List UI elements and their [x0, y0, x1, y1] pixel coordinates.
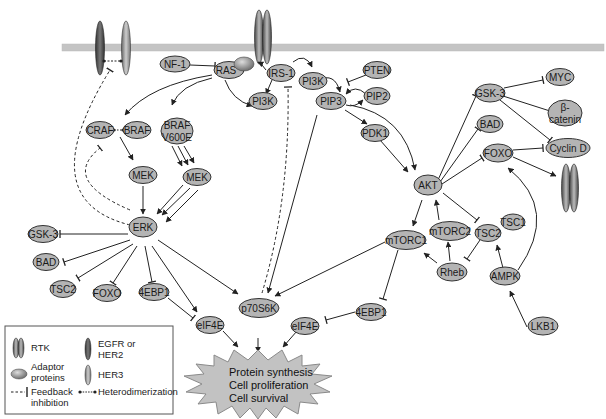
legend-proteins-label: proteins [31, 372, 65, 383]
node-mtorc2[interactable]: mTORC2 [429, 222, 471, 241]
node-eif4e-right[interactable]: eIF4E [291, 318, 319, 335]
node-braf-v600e[interactable]: BRAF V600E [161, 118, 193, 144]
legend-her3-label: HER3 [98, 369, 123, 380]
node-ampk[interactable]: AMPK [490, 267, 520, 285]
her3-receptor-icon [122, 21, 131, 75]
svg-text:MEK: MEK [186, 172, 208, 183]
legend-adaptor-label: Adaptor [31, 361, 64, 372]
node-lkb1[interactable]: LKB1 [528, 317, 558, 335]
svg-text:LKB1: LKB1 [531, 321, 556, 332]
svg-text:eIF4E: eIF4E [197, 320, 224, 331]
svg-text:BAD: BAD [36, 257, 57, 268]
svg-text:V600E: V600E [162, 132, 192, 143]
outcome-cell-proliferation: Cell proliferation [229, 379, 308, 391]
node-mek-braf[interactable]: MEK [183, 169, 211, 186]
node-braf[interactable]: BRAF [123, 122, 151, 139]
node-tsc2-left[interactable]: TSC2 [50, 281, 76, 298]
svg-text:PI3K: PI3K [252, 96, 274, 107]
legend-her2-label: HER2 [98, 349, 123, 360]
svg-text:GSK-3: GSK-3 [475, 88, 505, 99]
legend-adaptor-icon [11, 369, 27, 379]
svg-text:FOXO: FOXO [93, 288, 122, 299]
node-pip2[interactable]: PIP2 [364, 88, 390, 105]
svg-text:β-: β- [560, 102, 569, 113]
node-erk[interactable]: ERK [129, 217, 157, 237]
legend-feedback-label: Feedback [31, 386, 73, 397]
svg-text:RAS: RAS [216, 65, 237, 76]
svg-text:IRS-1: IRS-1 [268, 68, 294, 79]
svg-text:TSC2: TSC2 [50, 284, 76, 295]
node-nf1[interactable]: NF-1 [160, 56, 190, 72]
node-pdk1[interactable]: PDK1 [361, 125, 389, 142]
svg-text:AKT: AKT [418, 180, 437, 191]
legend-egfr-icon [85, 338, 91, 360]
node-4ebp1-left[interactable]: 4EBP1 [138, 284, 170, 301]
node-irs1[interactable]: IRS-1 [267, 65, 295, 82]
node-p70s6k[interactable]: p70S6K [239, 299, 279, 318]
svg-text:MYC: MYC [549, 72, 571, 83]
svg-text:4EBP1: 4EBP1 [355, 307, 387, 318]
node-tsc1[interactable]: TSC1 [500, 214, 526, 230]
svg-text:CRAF: CRAF [86, 125, 113, 136]
cell-membrane [62, 44, 604, 51]
signaling-pathway-diagram: NF-1 RAS IRS-1 PI3K PI3K PTEN PIP3 PIP2 … [0, 0, 606, 419]
svg-text:BAD: BAD [480, 119, 501, 130]
legend-inhibition-label: inhibition [31, 397, 69, 408]
pathway-edges [60, 58, 556, 352]
svg-text:BRAF: BRAF [124, 125, 151, 136]
node-myc[interactable]: MYC [546, 69, 574, 86]
legend-rtk-icon [13, 338, 24, 358]
svg-text:PTEN: PTEN [364, 65, 391, 76]
svg-text:eIF4E: eIF4E [292, 321, 319, 332]
node-gsk3-right[interactable]: GSK-3 [475, 84, 505, 102]
svg-text:GSK-3: GSK-3 [28, 229, 58, 240]
node-foxo-right[interactable]: FOXO [483, 144, 513, 162]
pathway-nodes: NF-1 RAS IRS-1 PI3K PI3K PTEN PIP3 PIP2 … [28, 56, 590, 335]
rtk-receptor-icon-right [562, 164, 579, 212]
legend-heterodimerization-label: Heterodimerization [98, 386, 178, 397]
node-pten[interactable]: PTEN [363, 62, 391, 79]
node-craf[interactable]: CRAF [86, 122, 114, 139]
legend-rtk-label: RTK [31, 342, 50, 353]
node-beta-catenin[interactable]: β- catenin [548, 100, 582, 126]
svg-text:catenin: catenin [549, 114, 581, 125]
node-akt[interactable]: AKT [414, 175, 442, 195]
node-eif4e-left[interactable]: eIF4E [196, 317, 224, 334]
svg-text:PIP2: PIP2 [366, 91, 388, 102]
adaptor-protein-icon [234, 57, 254, 71]
svg-text:ERK: ERK [133, 222, 154, 233]
rtk-receptor-icon [255, 10, 272, 64]
node-gsk3-left[interactable]: GSK-3 [28, 226, 58, 243]
svg-text:mTORC2: mTORC2 [429, 226, 471, 237]
node-bad-left[interactable]: BAD [33, 254, 59, 271]
svg-text:PI3K: PI3K [302, 76, 324, 87]
outcome-cell-survival: Cell survival [229, 392, 288, 404]
node-pip3[interactable]: PIP3 [316, 93, 346, 110]
node-bad-right[interactable]: BAD [477, 116, 503, 133]
node-cyclin-d[interactable]: Cyclin D [546, 139, 590, 158]
svg-text:PIP3: PIP3 [320, 96, 342, 107]
outcome-starburst: Protein synthesis Cell proliferation Cel… [184, 350, 332, 419]
svg-text:AMPK: AMPK [491, 271, 520, 282]
legend: RTK EGFR or HER2 Adaptor proteins HER3 F… [5, 326, 178, 414]
svg-text:TSC1: TSC1 [500, 217, 526, 228]
svg-text:mTORC1: mTORC1 [385, 235, 427, 246]
node-mtorc1[interactable]: mTORC1 [385, 231, 427, 250]
node-rheb[interactable]: Rheb [437, 263, 467, 281]
svg-text:PDK1: PDK1 [362, 128, 389, 139]
node-mek-craf[interactable]: MEK [129, 167, 157, 184]
node-foxo-left[interactable]: FOXO [93, 285, 122, 302]
svg-text:4EBP1: 4EBP1 [138, 287, 170, 298]
legend-her3-icon [85, 365, 91, 385]
svg-text:TSC2: TSC2 [475, 228, 501, 239]
svg-text:Rheb: Rheb [440, 267, 464, 278]
egfr-her2-receptor-icon [96, 21, 105, 75]
node-pi3k-irs[interactable]: PI3K [299, 73, 327, 90]
node-pi3k-ras[interactable]: PI3K [249, 93, 277, 110]
svg-text:NF-1: NF-1 [164, 59, 187, 70]
svg-text:BRAF: BRAF [164, 120, 191, 131]
node-tsc2-right[interactable]: TSC2 [475, 225, 501, 242]
svg-text:MEK: MEK [132, 170, 154, 181]
node-4ebp1-right[interactable]: 4EBP1 [355, 304, 387, 321]
outcome-protein-synthesis: Protein synthesis [229, 366, 313, 378]
